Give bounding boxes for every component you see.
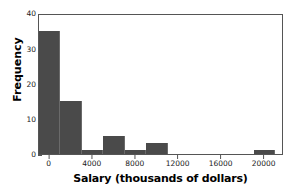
x-axis-tick-mark — [91, 155, 92, 159]
x-axis-tick-mark — [220, 155, 221, 159]
y-axis-tick-label: 30 — [26, 46, 38, 54]
x-axis-tick: 16000 — [209, 155, 233, 168]
histogram-bar — [39, 31, 60, 154]
x-axis-tick-label: 20000 — [252, 160, 276, 168]
plot-area — [38, 14, 283, 155]
x-axis-tick-mark — [263, 155, 264, 159]
x-axis-tick-label: 0 — [46, 160, 51, 168]
x-axis-tick-label: 16000 — [209, 160, 233, 168]
bars-layer — [39, 15, 282, 154]
x-axis-tick-group: 040008000120001600020000 — [38, 155, 283, 171]
histogram-bar — [146, 143, 167, 154]
x-axis-title: Salary (thousands of dollars) — [38, 172, 283, 185]
x-axis-tick-mark — [134, 155, 135, 159]
x-axis-tick: 0 — [46, 155, 51, 168]
histogram-bar — [103, 136, 124, 154]
histogram-chart: Frequency 010203040 04000800012000160002… — [0, 0, 297, 192]
y-axis-tick-label: 40 — [26, 10, 38, 18]
x-axis-tick-label: 4000 — [82, 160, 101, 168]
y-axis-tick-label: 20 — [26, 81, 38, 89]
y-axis-tick-group: 010203040 — [0, 14, 38, 155]
x-axis-tick-label: 12000 — [166, 160, 190, 168]
x-axis-tick: 8000 — [125, 155, 144, 168]
x-axis-tick: 12000 — [166, 155, 190, 168]
x-axis-tick-mark — [48, 155, 49, 159]
x-axis-tick-label: 8000 — [125, 160, 144, 168]
histogram-bar — [82, 150, 103, 154]
x-axis-tick-mark — [177, 155, 178, 159]
histogram-bar — [60, 101, 81, 154]
histogram-bar — [125, 150, 146, 154]
x-axis-tick: 4000 — [82, 155, 101, 168]
y-axis-tick-label: 0 — [31, 151, 38, 159]
histogram-bar — [254, 150, 275, 154]
y-axis-tick-label: 10 — [26, 116, 38, 124]
x-axis-tick: 20000 — [252, 155, 276, 168]
